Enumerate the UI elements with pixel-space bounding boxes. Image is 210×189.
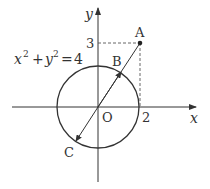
y-axis-label: y [84, 6, 94, 22]
vector-OC [76, 107, 98, 141]
svg-text:+: + [32, 51, 44, 67]
point-A-dot [138, 41, 143, 46]
svg-text:=: = [61, 51, 73, 67]
x-axis-label: x [190, 110, 198, 126]
tick-y-3: 3 [86, 36, 94, 51]
coordinate-diagram: A B C O 2 3 x y x 2 + y 2 = 4 [0, 0, 210, 189]
svg-text:x: x [14, 51, 22, 67]
label-A: A [134, 25, 145, 40]
svg-text:2: 2 [53, 49, 59, 59]
label-B: B [112, 54, 122, 69]
svg-text:4: 4 [74, 51, 83, 67]
vector-OB [98, 72, 121, 107]
circle-equation: x 2 + y 2 = 4 [14, 49, 83, 67]
label-origin: O [102, 110, 113, 125]
svg-text:2: 2 [23, 49, 29, 59]
tick-x-2: 2 [142, 110, 150, 125]
label-C: C [64, 145, 74, 160]
